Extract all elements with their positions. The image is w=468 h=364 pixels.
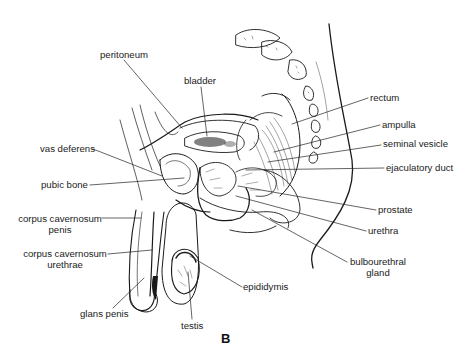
- label-bladder: bladder: [184, 75, 216, 86]
- label-glans-penis: glans penis: [80, 308, 129, 319]
- label-line-1: corpus cavernosum: [18, 213, 102, 224]
- label-line-1: bulbourethral: [348, 256, 408, 267]
- anatomy-figure: peritoneum bladder rectum ampulla semina…: [0, 0, 468, 364]
- panel-letter: B: [221, 331, 230, 346]
- label-corpus-cavernosum-urethrae: corpus cavernosum urethrae: [22, 248, 108, 270]
- label-ampulla: ampulla: [382, 119, 416, 130]
- label-ejaculatory-duct: ejaculatory duct: [386, 162, 453, 173]
- label-rectum: rectum: [370, 92, 399, 103]
- label-pubic-bone: pubic bone: [41, 179, 88, 190]
- label-epididymis: epididymis: [243, 281, 288, 292]
- label-seminal-vesicle: seminal vesicle: [383, 138, 448, 149]
- label-line-1: corpus cavernosum: [22, 248, 108, 259]
- label-peritoneum: peritoneum: [100, 49, 148, 60]
- label-bulbourethral-gland: bulbourethral gland: [348, 256, 408, 278]
- label-testis: testis: [181, 320, 203, 331]
- label-vas-deferens: vas deferens: [40, 143, 95, 154]
- label-corpus-cavernosum-penis: corpus cavernosum penis: [18, 213, 102, 235]
- label-line-2: penis: [18, 224, 102, 235]
- label-urethra: urethra: [368, 225, 398, 236]
- label-prostate: prostate: [378, 204, 413, 215]
- caption-fragment: [0, 356, 468, 364]
- label-line-2: urethrae: [22, 259, 108, 270]
- label-line-2: gland: [348, 267, 408, 278]
